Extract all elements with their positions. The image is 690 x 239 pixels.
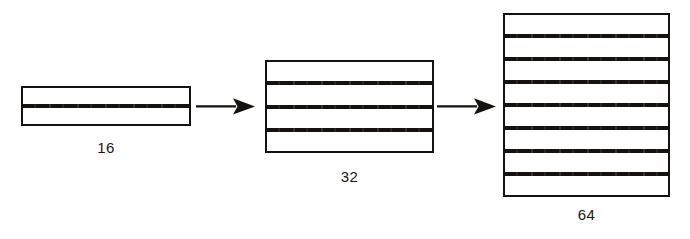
layer-band — [267, 81, 432, 104]
layer-stack-32 — [265, 60, 434, 153]
layer-stack-64 — [503, 13, 670, 197]
layer-band — [505, 126, 668, 149]
layer-band — [505, 103, 668, 126]
layer-band — [267, 128, 432, 151]
layer-stack-32-label: 32 — [265, 168, 434, 185]
layer-band — [505, 80, 668, 103]
layer-band — [267, 105, 432, 128]
layer-band — [505, 172, 668, 195]
layer-band — [23, 104, 189, 124]
layer-stack-16 — [21, 86, 191, 126]
layer-band — [505, 34, 668, 57]
layer-band — [23, 88, 189, 104]
layer-stack-16-label: 16 — [21, 139, 191, 156]
layer-band — [505, 15, 668, 34]
layer-stack-64-label: 64 — [503, 206, 670, 223]
layer-stack-figure: 16 32 64 — [0, 0, 690, 239]
arrow-right-icon — [196, 96, 256, 118]
layer-band — [505, 149, 668, 172]
layer-band — [267, 62, 432, 81]
layer-band — [505, 57, 668, 80]
arrow-right-icon — [437, 96, 497, 118]
